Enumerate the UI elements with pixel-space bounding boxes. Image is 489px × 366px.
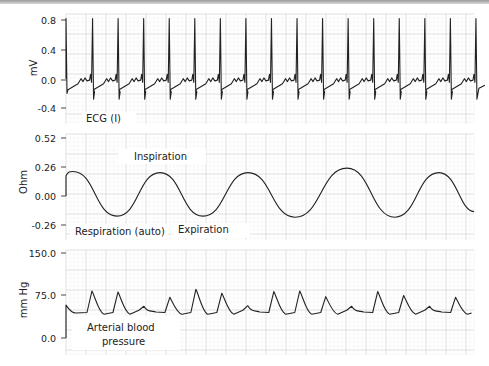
respiration-panel: 0.52 0.26 0.00 -0.26 Ohm Inspiration Res… (18, 133, 474, 241)
respiration-annotation: Respiration (auto) (75, 226, 165, 237)
respiration-trace (66, 168, 474, 217)
abp-ylabel: mm Hg (18, 282, 29, 319)
resp-ytick-1: 0.26 (35, 162, 56, 173)
ecg-ytick-1: 0.4 (41, 45, 56, 56)
ecg-annotation: ECG (I) (86, 113, 121, 124)
physiology-chart: 0.8 0.4 0.0 -0.4 mV ECG (I) 0.52 0.26 0.… (0, 0, 489, 366)
resp-ylabel: Ohm (18, 170, 29, 194)
abp-ytick-1: 75.0 (35, 290, 56, 301)
inspiration-annotation: Inspiration (134, 151, 187, 162)
abp-annotation-line1: Arterial blood (87, 322, 155, 333)
abp-panel: 150.0 75.0 0.0 mm Hg Arterial blood pres… (18, 248, 474, 356)
abp-ytick-0: 150.0 (29, 248, 56, 259)
ecg-grid (66, 14, 474, 124)
ecg-ylabel: mV (28, 60, 39, 77)
resp-ytick-0: 0.52 (35, 133, 56, 144)
resp-ytick-3: -0.26 (31, 220, 56, 231)
abp-annotation-line2: pressure (102, 336, 145, 347)
ecg-ytick-3: -0.4 (37, 103, 56, 114)
expiration-annotation: Expiration (178, 224, 229, 235)
ecg-ytick-0: 0.8 (41, 15, 56, 26)
ecg-ytick-2: 0.0 (41, 75, 56, 86)
ecg-panel: 0.8 0.4 0.0 -0.4 mV ECG (I) (0, 0, 485, 126)
abp-ytick-2: 0.0 (41, 333, 56, 344)
resp-ytick-2: 0.00 (35, 191, 56, 202)
